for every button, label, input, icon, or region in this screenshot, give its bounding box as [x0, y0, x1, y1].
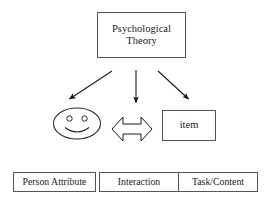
legend-label-person-attribute: Person Attribute [23, 176, 87, 188]
psychological-theory-label: Psychological Theory [112, 23, 171, 48]
legend-label-task-content: Task/Content [192, 176, 244, 188]
psychological-theory-node[interactable]: Psychological Theory [97, 12, 186, 58]
face-left-eye-icon [67, 116, 72, 121]
arrow-theory-to-item [158, 71, 189, 99]
face-outline [54, 108, 101, 139]
item-label: item [180, 119, 199, 131]
legend-label-interaction: Interaction [118, 176, 160, 188]
legend-box-task-content[interactable]: Task/Content [178, 172, 258, 192]
legend-box-person-attribute[interactable]: Person Attribute [13, 172, 96, 192]
smiley-face-node[interactable] [54, 108, 101, 139]
item-node[interactable]: item [162, 110, 216, 141]
double-headed-arrow[interactable] [112, 117, 152, 141]
face-right-eye-icon [82, 116, 87, 121]
legend-box-interaction[interactable]: Interaction [99, 172, 179, 192]
arrow-theory-to-person [70, 71, 113, 99]
diagram-canvas: Psychological Theory item Person Attribu… [0, 0, 271, 202]
